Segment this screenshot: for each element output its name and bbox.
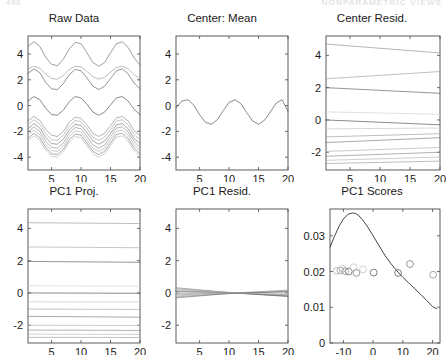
y-tick-label: -4 (161, 151, 171, 163)
y-tick-label: -2 (161, 319, 171, 331)
panel-raw-data: Raw Data 5101520-4-2024 (0, 12, 148, 182)
y-tick-label: -2 (311, 146, 321, 158)
data-curve (28, 127, 140, 148)
y-tick-label: 4 (165, 48, 171, 60)
scatter-marker (395, 270, 402, 277)
data-curve (326, 112, 440, 114)
plot-svg-pc1-resid: 5101520-2024 (148, 199, 296, 355)
plot-center-resid: 5101520-2024 (296, 26, 448, 182)
data-curve (28, 97, 140, 116)
y-tick-label: 2 (165, 255, 171, 267)
x-tick-label: 10 (374, 173, 386, 182)
data-curve (326, 44, 440, 53)
x-tick-label: 15 (104, 346, 116, 355)
page-number: 496 (6, 0, 21, 7)
scatter-marker (353, 270, 360, 277)
panel-pc1-scores: PC1 Scores -100102000.010.020.03 (296, 185, 448, 359)
y-tick-label: 4 (165, 222, 171, 234)
data-curve (28, 117, 140, 137)
mean-curve (176, 100, 288, 124)
x-tick-label: 10 (75, 346, 87, 355)
data-curve (28, 247, 140, 248)
panel-pc1-resid: PC1 Resid. 5101520-2024 (148, 185, 296, 359)
plot-pc1-resid: 5101520-2024 (148, 199, 296, 355)
figure-page: 496 NONPARAMETRIC VIEWS Raw Data 5101520… (0, 0, 448, 359)
panel-title-raw-data: Raw Data (0, 12, 148, 24)
y-tick-label: 0.03 (304, 230, 325, 242)
y-tick-label: -2 (13, 319, 23, 331)
data-curve (28, 316, 140, 317)
data-curve (326, 120, 440, 125)
data-curve (326, 134, 440, 137)
x-tick-label: 15 (104, 173, 116, 182)
y-tick-label: 2 (17, 74, 23, 86)
x-tick-label: 15 (252, 346, 264, 355)
y-tick-label: 0 (17, 100, 23, 112)
x-tick-label: 5 (197, 173, 203, 182)
page-header: 496 NONPARAMETRIC VIEWS (0, 0, 448, 8)
y-tick-label: 4 (315, 49, 321, 61)
plot-pc1-scores: -100102000.010.020.03 (296, 199, 448, 355)
panel-title-pc1-proj: PC1 Proj. (0, 185, 148, 197)
data-curve (28, 223, 140, 224)
y-tick-label: 0.01 (304, 301, 325, 313)
x-tick-label: 20 (282, 346, 294, 355)
data-curve (28, 66, 140, 79)
density-curve (330, 213, 437, 309)
y-tick-label: 0.02 (304, 266, 325, 278)
data-curve (326, 88, 440, 94)
plot-svg-center-mean: 5101520-4-2024 (148, 26, 296, 182)
panel-center-mean: Center: Mean 5101520-4-2024 (148, 12, 296, 182)
x-tick-label: 20 (434, 173, 446, 182)
data-curve (28, 42, 140, 66)
plot-svg-center-resid: 5101520-2024 (296, 26, 448, 182)
x-tick-label: 10 (223, 346, 235, 355)
x-tick-label: 20 (134, 173, 146, 182)
data-curve (326, 161, 440, 163)
x-tick-label: 10 (75, 173, 87, 182)
y-tick-label: 0 (315, 114, 321, 126)
y-tick-label: 0 (165, 100, 171, 112)
panel-pc1-proj: PC1 Proj. 5101520-2024 (0, 185, 148, 359)
axis-box (326, 36, 440, 170)
axis-box (176, 36, 288, 170)
x-tick-label: 20 (426, 346, 438, 355)
y-tick-label: 2 (17, 255, 23, 267)
y-tick-label: 0 (319, 337, 325, 349)
axis-box (176, 209, 288, 343)
panel-title-pc1-resid: PC1 Resid. (148, 185, 296, 197)
x-tick-label: 5 (347, 173, 353, 182)
plot-svg-pc1-scores: -100102000.010.020.03 (296, 199, 448, 355)
x-tick-label: 5 (49, 346, 55, 355)
data-curve (326, 157, 440, 160)
data-curve (326, 128, 440, 129)
y-tick-label: 0 (165, 287, 171, 299)
plot-pc1-proj: 5101520-2024 (0, 199, 148, 355)
y-tick-label: 4 (17, 48, 23, 60)
panel-title-pc1-scores: PC1 Scores (296, 185, 448, 197)
x-tick-label: 0 (370, 346, 376, 355)
data-curve (28, 69, 140, 90)
data-curve (28, 261, 140, 262)
scatter-marker (370, 269, 377, 276)
running-head: NONPARAMETRIC VIEWS (322, 0, 442, 7)
panel-title-center-mean: Center: Mean (148, 12, 296, 24)
x-tick-label: 20 (134, 346, 146, 355)
x-tick-label: 10 (397, 346, 409, 355)
x-tick-label: 5 (197, 346, 203, 355)
x-tick-label: -10 (335, 346, 351, 355)
x-tick-label: 20 (282, 173, 294, 182)
panel-title-center-resid: Center Resid. (296, 12, 448, 24)
y-tick-label: 4 (17, 222, 23, 234)
axis-box (330, 209, 440, 343)
plot-svg-raw-data: 5101520-4-2024 (0, 26, 148, 182)
data-curve (326, 138, 440, 143)
x-tick-label: 15 (404, 173, 416, 182)
x-tick-label: 5 (49, 173, 55, 182)
data-curve (326, 147, 440, 151)
plot-svg-pc1-proj: 5101520-2024 (0, 199, 148, 355)
y-tick-label: -2 (13, 125, 23, 137)
data-curve (28, 120, 140, 141)
x-tick-label: 15 (252, 173, 264, 182)
data-curve (326, 152, 440, 156)
